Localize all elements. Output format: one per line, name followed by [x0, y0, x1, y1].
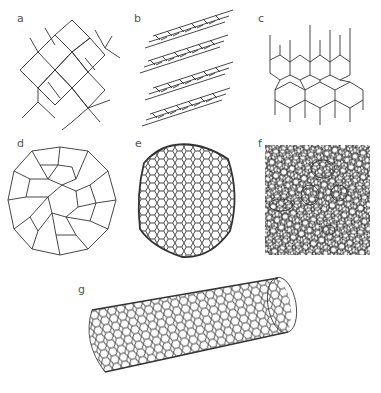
panel-d-c60: d [0, 135, 130, 265]
graphite-layers-illustration [125, 0, 250, 135]
panel-a-diamond: a [0, 0, 130, 135]
panel-c-lonsdaleite: c [245, 0, 381, 135]
panel-g-nanotube: g [60, 270, 360, 393]
amorphous-carbon-illustration [255, 135, 381, 265]
c60-fullerene-illustration [0, 135, 130, 265]
diamond-lattice-illustration [0, 0, 130, 135]
carbon-nanotube-illustration [60, 270, 360, 393]
panel-f-amorphous: f [255, 135, 381, 265]
panel-b-graphite: b [125, 0, 250, 135]
panel-e-c540: e [130, 135, 255, 265]
lonsdaleite-lattice-illustration [245, 0, 381, 135]
c540-fullerene-illustration [130, 135, 255, 265]
